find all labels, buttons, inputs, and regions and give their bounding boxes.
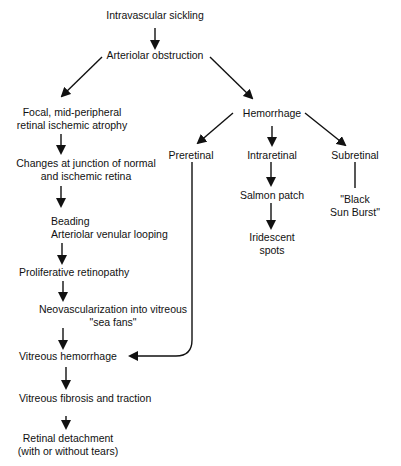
node-salmon-patch: Salmon patch bbox=[240, 189, 304, 202]
node-beading-line2: Arteriolar venular looping bbox=[51, 228, 168, 241]
node-focal-line2: retinal ischemic atrophy bbox=[17, 119, 127, 132]
node-intravascular-sickling: Intravascular sickling bbox=[106, 9, 203, 22]
node-neovasc-line1: Neovascularization into vitreous bbox=[39, 303, 187, 316]
node-sunburst-line1: "Black bbox=[340, 193, 369, 206]
node-subretinal: Subretinal bbox=[331, 149, 378, 162]
node-sunburst-line2: Sun Burst" bbox=[330, 206, 380, 219]
node-iridescent-line1: Iridescent bbox=[249, 231, 295, 244]
node-beading-line1: Beading bbox=[51, 215, 90, 228]
node-iridescent-line2: spots bbox=[259, 244, 284, 257]
arrow-hemorrhage-to-preretinal bbox=[198, 113, 233, 143]
arrow-arteriolar-to-hemorrhage bbox=[210, 57, 252, 98]
node-intraretinal: Intraretinal bbox=[247, 149, 297, 162]
node-hemorrhage: Hemorrhage bbox=[243, 107, 301, 120]
arrow-hemorrhage-to-subretinal bbox=[305, 113, 345, 145]
node-preretinal: Preretinal bbox=[169, 149, 214, 162]
node-vitreous-hemorrhage: Vitreous hemorrhage bbox=[19, 350, 117, 363]
arrow-arteriolar-to-focal bbox=[62, 57, 102, 96]
node-changes-line1: Changes at junction of normal bbox=[16, 157, 156, 170]
arrow-preretinal-to-vitreous-hem bbox=[130, 162, 192, 356]
node-detachment-line2: (with or without tears) bbox=[18, 445, 118, 458]
node-detachment-line1: Retinal detachment bbox=[23, 432, 113, 445]
node-changes-line2: and ischemic retina bbox=[41, 170, 131, 183]
node-focal-line1: Focal, mid-peripheral bbox=[23, 106, 122, 119]
node-vitreous-fibrosis: Vitreous fibrosis and traction bbox=[19, 392, 151, 405]
node-arteriolar-obstruction: Arteriolar obstruction bbox=[107, 49, 204, 62]
node-proliferative-retinopathy: Proliferative retinopathy bbox=[19, 266, 129, 279]
node-neovasc-line2: "sea fans" bbox=[89, 316, 136, 329]
